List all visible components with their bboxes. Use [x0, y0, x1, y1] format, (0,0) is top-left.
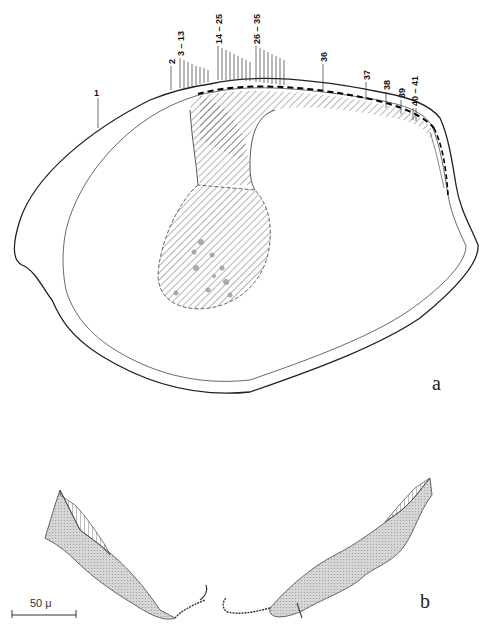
- label-1: 1: [94, 88, 99, 98]
- panel-a-letter: a: [432, 372, 441, 395]
- label-37: 37: [362, 70, 372, 80]
- label-40-41: 40 – 41: [410, 76, 420, 106]
- panel-a-shell: [14, 79, 478, 394]
- panel-b-left-fragment: [45, 490, 207, 619]
- label-2: 2: [167, 59, 177, 64]
- figure-drawing: 1 2 3 – 13 14 – 25 26 – 35 36 37 38 39 4…: [0, 0, 485, 631]
- panel-b-right-fragment: [223, 478, 432, 618]
- panel-b-letter: b: [420, 590, 430, 613]
- label-26-35: 26 – 35: [252, 14, 262, 44]
- scale-bar: [12, 610, 76, 618]
- label-39: 39: [397, 88, 407, 98]
- label-14-25: 14 – 25: [214, 14, 224, 44]
- label-36: 36: [319, 52, 329, 62]
- label-38: 38: [382, 80, 392, 90]
- scale-bar-label: 50 μ: [30, 597, 52, 609]
- label-3-13: 3 – 13: [176, 31, 186, 56]
